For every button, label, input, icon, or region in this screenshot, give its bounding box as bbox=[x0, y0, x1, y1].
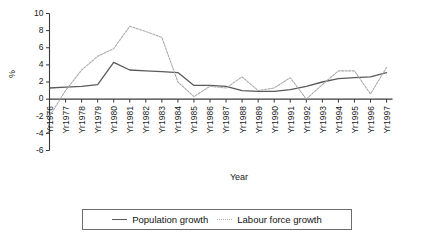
x-tick-label: Yr1978 bbox=[77, 106, 87, 134]
x-tick-label: Yr1995 bbox=[350, 106, 360, 134]
legend-swatch-dotted-icon bbox=[217, 219, 232, 220]
x-tick-label: Yr1981 bbox=[125, 106, 135, 134]
y-tick-label: 10 bbox=[34, 8, 44, 18]
legend-swatch-solid-icon bbox=[112, 219, 127, 220]
x-tick-label: Yr1992 bbox=[302, 106, 312, 134]
y-tick-label: 8 bbox=[39, 25, 44, 35]
x-tick-label: Yr1991 bbox=[286, 106, 296, 134]
y-axis-title: % bbox=[7, 70, 17, 78]
y-tick-label: 0 bbox=[39, 93, 44, 103]
x-tick-label: Yr1977 bbox=[61, 106, 71, 134]
x-tick-label: Yr1993 bbox=[318, 106, 328, 134]
chart-canvas: 1086420-2-4-6 Yr1976Yr1977Yr1978Yr1979Yr… bbox=[0, 0, 433, 242]
x-tick-label: Yr1994 bbox=[334, 106, 344, 134]
chart-legend: Population growth Labour force growth bbox=[82, 209, 352, 230]
legend-item-labour-force-growth: Labour force growth bbox=[217, 214, 322, 225]
data-series-group bbox=[50, 26, 387, 116]
x-tick-label: Yr1985 bbox=[189, 106, 199, 134]
x-tick-label: Yr1988 bbox=[238, 106, 248, 134]
x-tick-label: Yr1997 bbox=[382, 106, 392, 134]
y-tick-label: 2 bbox=[39, 76, 44, 86]
x-tick-label: Yr1982 bbox=[141, 106, 151, 134]
y-tick-label: -2 bbox=[36, 111, 44, 121]
x-tick-label: Yr1984 bbox=[173, 106, 183, 134]
x-tick-label: Yr1979 bbox=[93, 106, 103, 134]
series-line-labour-force-growth bbox=[50, 26, 387, 116]
legend-item-population-growth: Population growth bbox=[112, 214, 208, 225]
y-tick-label: 4 bbox=[39, 59, 44, 69]
line-chart: 1086420-2-4-6 Yr1976Yr1977Yr1978Yr1979Yr… bbox=[0, 0, 433, 242]
y-tick-label: 6 bbox=[39, 42, 44, 52]
y-tick-label: -6 bbox=[36, 145, 44, 155]
legend-label-labour-force-growth: Labour force growth bbox=[237, 214, 322, 225]
x-tick-label: Yr1983 bbox=[157, 106, 167, 134]
x-tick-label: Yr1989 bbox=[254, 106, 264, 134]
x-tick-label: Yr1980 bbox=[109, 106, 119, 134]
x-axis-title: Year bbox=[230, 172, 248, 182]
legend-label-population-growth: Population growth bbox=[132, 214, 208, 225]
y-tick-label: -4 bbox=[36, 128, 44, 138]
x-tick-label: Yr1996 bbox=[366, 106, 376, 134]
x-tick-label: Yr1986 bbox=[205, 106, 215, 134]
x-tick-label: Yr1990 bbox=[270, 106, 280, 134]
x-tick-label: Yr1987 bbox=[221, 106, 231, 134]
x-axis: Yr1976Yr1977Yr1978Yr1979Yr1980Yr1981Yr19… bbox=[45, 99, 393, 133]
